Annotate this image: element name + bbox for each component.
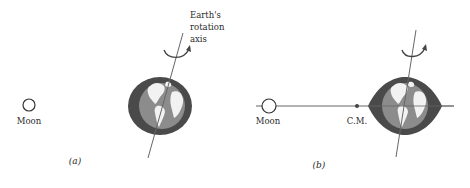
caption-a: (a) (69, 156, 82, 166)
center-of-mass-dot (355, 104, 359, 108)
moon-icon (23, 99, 35, 111)
panel-a: Moon Earth's rotation axis (a) (17, 10, 227, 166)
moon-icon (262, 99, 276, 113)
panel-b: Moon C.M. (b) (256, 30, 454, 170)
axis-label: Earth's rotation axis (190, 10, 227, 44)
moon-label: Moon (256, 116, 281, 126)
cm-label: C.M. (347, 116, 367, 126)
moon-label: Moon (17, 116, 42, 126)
earth-icon (128, 77, 192, 135)
caption-b: (b) (313, 160, 326, 170)
earth-moon-diagram: Moon Earth's rotation axis (a) Moon (0, 0, 470, 188)
rotation-arrow-icon (402, 48, 425, 57)
